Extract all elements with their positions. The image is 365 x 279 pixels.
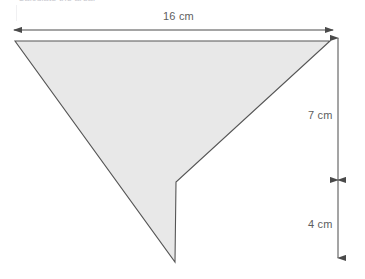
width-dimension-label: 16 cm — [0, 10, 357, 22]
diagram-page: Calculate the area. 16 cm 7 cm 4 cm — [0, 0, 365, 279]
lower-height-dimension-label: 4 cm — [308, 218, 333, 230]
arrowhead-polygon — [15, 41, 330, 262]
geometry-diagram — [0, 0, 365, 279]
upper-height-dimension-label: 7 cm — [308, 109, 333, 121]
